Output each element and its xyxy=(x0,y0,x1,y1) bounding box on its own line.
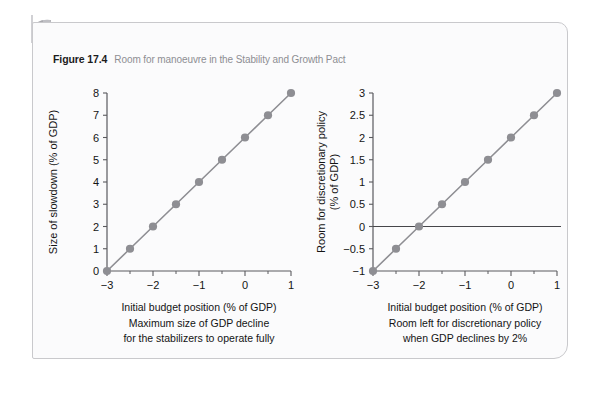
chart-caption: Initial budget position (% of GDP)Room l… xyxy=(387,301,542,344)
chart-caption-line: for the stabilizers to operate fully xyxy=(123,332,275,344)
y-tick-label: 2 xyxy=(93,221,99,233)
y-axis-title-line: (% of GDP) xyxy=(328,154,340,210)
chart-caption-line: Room left for discretionary policy xyxy=(389,317,542,329)
data-point-marker xyxy=(415,222,423,230)
y-axis-title: Room for discretionary policy(% of GDP) xyxy=(315,111,340,253)
chart-max-size-of-gdp-decline: 012345678−3−2−101Size of slowdown (% of … xyxy=(33,81,301,356)
data-point-marker xyxy=(438,200,446,208)
x-tick-label: −3 xyxy=(101,279,114,291)
chart-svg-left: 012345678−3−2−101Size of slowdown (% of … xyxy=(33,81,301,356)
chart-caption-line: when GDP declines by 2% xyxy=(402,332,527,344)
x-tick-label: 0 xyxy=(242,279,248,291)
figure-title: Figure 17.4Room for manoeuvre in the Sta… xyxy=(53,49,345,67)
data-point-marker xyxy=(369,267,377,275)
y-tick-label: 7 xyxy=(93,109,99,121)
y-tick-label: −0.5 xyxy=(343,243,365,255)
axis-group: 012345678−3−2−101 xyxy=(93,87,294,291)
data-point-marker xyxy=(126,245,134,253)
data-point-marker xyxy=(218,156,226,164)
x-tick-label: −3 xyxy=(367,279,380,291)
x-tick-label: 1 xyxy=(288,279,294,291)
y-tick-label: 4 xyxy=(93,176,99,188)
chart-svg-right: −1−0.500.511.522.53−3−2−101Room for disc… xyxy=(299,81,567,356)
data-point-marker xyxy=(530,111,538,119)
series-group xyxy=(369,89,561,275)
axis-group: −1−0.500.511.522.53−3−2−101 xyxy=(343,87,561,291)
data-point-marker xyxy=(103,267,111,275)
chart-caption-line: Initial budget position (% of GDP) xyxy=(121,301,276,313)
y-tick-label: 5 xyxy=(93,154,99,166)
figure-panel: Figure 17.4Room for manoeuvre in the Sta… xyxy=(32,22,568,359)
data-point-marker xyxy=(287,89,295,97)
data-point-marker xyxy=(484,156,492,164)
y-axis-title-line: Size of slowdown (% of GDP) xyxy=(47,110,59,254)
figure-number: Figure 17.4 xyxy=(53,53,107,65)
data-point-marker xyxy=(507,133,515,141)
x-tick-label: 0 xyxy=(508,279,514,291)
data-point-marker xyxy=(149,222,157,230)
y-tick-label: 3 xyxy=(93,198,99,210)
page-root: Figure 17.4Room for manoeuvre in the Sta… xyxy=(0,0,603,394)
chart-caption-line: Maximum size of GDP decline xyxy=(129,317,270,329)
y-tick-label: 2.5 xyxy=(350,109,365,121)
figure-caption: Room for manoeuvre in the Stability and … xyxy=(114,54,345,65)
y-tick-label: 1.5 xyxy=(350,154,365,166)
x-tick-label: −2 xyxy=(413,279,426,291)
y-tick-label: 0.5 xyxy=(350,198,365,210)
chart-caption: Initial budget position (% of GDP)Maximu… xyxy=(121,301,276,344)
x-tick-label: −2 xyxy=(147,279,160,291)
y-axis-title: Size of slowdown (% of GDP) xyxy=(47,110,59,254)
y-tick-label: 3 xyxy=(359,87,365,99)
data-point-marker xyxy=(461,178,469,186)
y-tick-label: 0 xyxy=(359,221,365,233)
data-point-marker xyxy=(172,200,180,208)
y-axis-title-line: Room for discretionary policy xyxy=(315,111,327,253)
chart-caption-line: Initial budget position (% of GDP) xyxy=(387,301,542,313)
y-tick-label: 0 xyxy=(93,265,99,277)
y-tick-label: 2 xyxy=(359,132,365,144)
data-point-marker xyxy=(241,133,249,141)
y-tick-label: 1 xyxy=(359,176,365,188)
chart-room-left-for-discretionary-policy: −1−0.500.511.522.53−3−2−101Room for disc… xyxy=(299,81,567,356)
y-tick-label: −1 xyxy=(352,265,365,277)
x-tick-label: −1 xyxy=(193,279,206,291)
data-point-marker xyxy=(392,245,400,253)
charts-container: 012345678−3−2−101Size of slowdown (% of … xyxy=(33,81,569,356)
data-point-marker xyxy=(264,111,272,119)
data-point-marker xyxy=(195,178,203,186)
x-tick-label: 1 xyxy=(554,279,560,291)
y-tick-label: 8 xyxy=(93,87,99,99)
series-group xyxy=(103,89,295,275)
y-tick-label: 6 xyxy=(93,132,99,144)
data-point-marker xyxy=(553,89,561,97)
y-tick-label: 1 xyxy=(93,243,99,255)
x-tick-label: −1 xyxy=(459,279,472,291)
